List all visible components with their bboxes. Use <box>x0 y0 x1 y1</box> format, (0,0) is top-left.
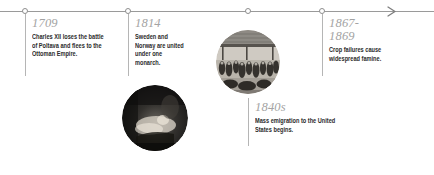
entry-description: Mass emigration to the United States beg… <box>255 117 337 134</box>
entry-description: Crop failures cause widespread famine. <box>329 46 395 63</box>
connector-line <box>248 98 249 146</box>
entry-description: Sweden and Norway are united under one m… <box>135 33 185 67</box>
timeline-entry: 1867- 1869 Crop failures cause widesprea… <box>329 17 395 63</box>
connector-line <box>128 14 129 76</box>
timeline-entry: 1814 Sweden and Norway are united under … <box>135 17 185 67</box>
entry-year: 1814 <box>135 17 185 30</box>
timeline-axis <box>0 11 434 12</box>
entry-year: 1709 <box>32 17 104 30</box>
entry-year: 1867- 1869 <box>329 17 395 43</box>
emigration-engraving-photo <box>216 30 280 94</box>
timeline-tick-icon[interactable] <box>245 8 251 14</box>
timeline-entry: 1840s Mass emigration to the United Stat… <box>255 101 337 134</box>
timeline-infographic: 1709 Charles XII loses the battle of Pol… <box>0 0 434 175</box>
connector-line <box>322 14 323 76</box>
connector-line <box>25 14 26 76</box>
entry-description: Charles XII loses the battle of Poltava … <box>32 33 104 59</box>
battle-engraving-photo <box>122 85 188 151</box>
entry-year: 1840s <box>255 101 337 114</box>
timeline-entry: 1709 Charles XII loses the battle of Pol… <box>32 17 104 59</box>
